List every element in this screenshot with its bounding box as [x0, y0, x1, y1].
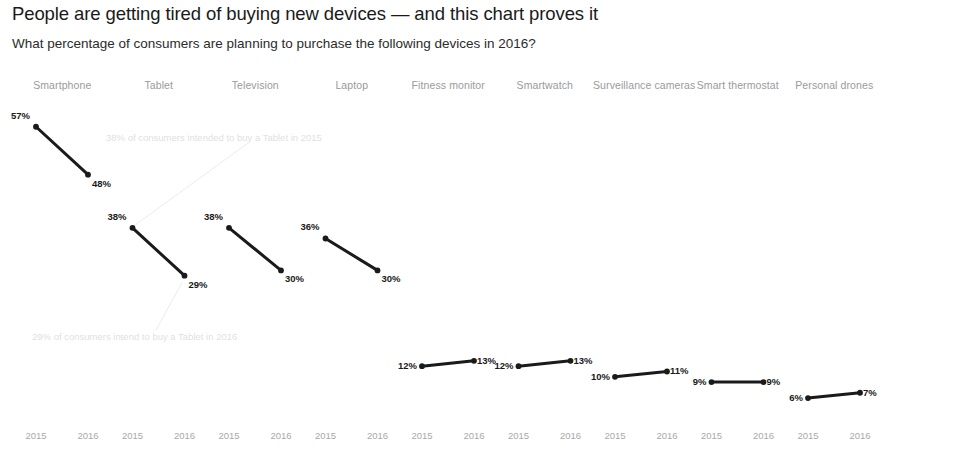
data-point-marker: [226, 225, 232, 231]
data-point-marker: [612, 374, 618, 380]
x-axis-label-2016: 2016: [551, 430, 591, 441]
x-axis-label-2016: 2016: [647, 430, 687, 441]
data-point-marker: [419, 363, 425, 369]
series-line: [229, 228, 281, 271]
value-label-2016: 11%: [670, 365, 689, 376]
x-axis-label-2015: 2015: [788, 430, 828, 441]
data-point-marker: [709, 379, 715, 385]
x-axis-label-2015: 2015: [692, 430, 732, 441]
value-label-2015: 12%: [398, 360, 417, 371]
plot-area: [0, 0, 978, 464]
value-label-2016: 13%: [574, 355, 593, 366]
data-point-marker: [130, 225, 136, 231]
annotation-bottom: 29% of consumers intend to buy a Tablet …: [32, 331, 237, 342]
x-axis-label-2016: 2016: [261, 430, 301, 441]
data-point-marker: [323, 236, 329, 242]
x-axis-label-2015: 2015: [306, 430, 346, 441]
data-point-marker: [85, 172, 91, 178]
value-label-2015: 57%: [11, 110, 30, 121]
value-label-2016: 13%: [477, 355, 496, 366]
x-axis-label-2016: 2016: [840, 430, 880, 441]
value-label-2016: 9%: [767, 376, 781, 387]
x-axis-label-2015: 2015: [499, 430, 539, 441]
x-axis-label-2016: 2016: [744, 430, 784, 441]
annotation-leader-line: [156, 282, 183, 330]
annotation-leader-line: [129, 143, 249, 230]
value-label-2015: 38%: [204, 211, 223, 222]
x-axis-label-2016: 2016: [454, 430, 494, 441]
x-axis-label-2015: 2015: [402, 430, 442, 441]
series-line: [615, 371, 667, 376]
value-label-2015: 6%: [789, 392, 803, 403]
value-label-2015: 9%: [693, 376, 707, 387]
value-label-2015: 38%: [107, 211, 126, 222]
value-label-2016: 7%: [863, 387, 877, 398]
series-line: [36, 127, 88, 175]
data-point-marker: [375, 268, 381, 274]
value-label-2015: 12%: [494, 360, 513, 371]
series-line: [808, 393, 860, 398]
x-axis-label-2015: 2015: [113, 430, 153, 441]
x-axis-label-2015: 2015: [209, 430, 249, 441]
series-line: [519, 361, 571, 366]
value-label-2015: 36%: [300, 221, 319, 232]
data-point-marker: [805, 395, 811, 401]
value-label-2016: 29%: [189, 279, 208, 290]
annotation-top: 38% of consumers intended to buy a Table…: [106, 132, 322, 143]
series-line: [326, 238, 378, 270]
series-line: [422, 361, 474, 366]
x-axis-label-2015: 2015: [16, 430, 56, 441]
data-point-marker: [278, 268, 284, 274]
data-point-marker: [516, 363, 522, 369]
value-label-2016: 48%: [92, 178, 111, 189]
x-axis-label-2016: 2016: [358, 430, 398, 441]
value-label-2016: 30%: [285, 273, 304, 284]
data-point-marker: [33, 124, 39, 130]
value-label-2015: 10%: [591, 371, 610, 382]
data-point-marker: [182, 273, 188, 279]
series-line: [133, 228, 185, 276]
x-axis-label-2016: 2016: [165, 430, 205, 441]
value-label-2016: 30%: [382, 273, 401, 284]
x-axis-label-2015: 2015: [595, 430, 635, 441]
x-axis-label-2016: 2016: [68, 430, 108, 441]
chart-container: People are getting tired of buying new d…: [0, 0, 978, 464]
